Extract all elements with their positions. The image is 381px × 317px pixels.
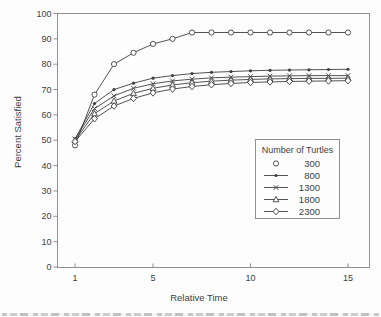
y-tick-label: 40 [41, 161, 51, 171]
y-tick-label: 100 [36, 9, 51, 19]
y-tick-label: 0 [46, 262, 51, 272]
legend-item-label: 300 [289, 158, 320, 169]
y-tick-label: 80 [41, 59, 51, 69]
legend-item-300: 300 [256, 157, 339, 169]
triangle-open-icon [263, 194, 289, 205]
legend-item-800: 800 [256, 169, 339, 181]
x-tick-label: 15 [343, 273, 353, 283]
legend-title: Number of Turtles [256, 145, 339, 155]
y-tick-label: 60 [41, 110, 51, 120]
series-2300 [72, 77, 351, 144]
legend-item-label: 800 [289, 170, 320, 181]
circle-open-icon [263, 158, 289, 169]
y-tick-label: 90 [41, 34, 51, 44]
y-tick-label: 70 [41, 85, 51, 95]
diamond-open-icon [263, 206, 289, 217]
y-tick-label: 20 [41, 211, 51, 221]
x-tick-label: 1 [72, 273, 77, 283]
x-tick-label: 5 [150, 273, 155, 283]
line-chart-figure: 0102030405060708090100151015 Percent Sat… [0, 0, 381, 317]
y-tick-label: 50 [41, 135, 51, 145]
legend-items: 300800130018002300 [256, 157, 339, 217]
dot-filled-icon [263, 170, 289, 181]
legend-item-label: 1800 [289, 194, 320, 205]
x-axis-title: Relative Time [170, 292, 228, 303]
legend-item-1300: 1300 [256, 181, 339, 193]
legend-item-1800: 1800 [256, 193, 339, 205]
x-tick-label: 10 [245, 273, 255, 283]
legend-box: Number of Turtles 300800130018002300 [255, 139, 340, 219]
x-cross-icon [263, 182, 289, 193]
legend-item-label: 2300 [289, 206, 320, 217]
cropped-caption-remnant [2, 313, 379, 316]
y-tick-label: 10 [41, 237, 51, 247]
y-tick-label: 30 [41, 186, 51, 196]
legend-item-2300: 2300 [256, 205, 339, 217]
y-axis-title: Percent Satisfied [12, 96, 23, 168]
legend-item-label: 1300 [289, 182, 320, 193]
